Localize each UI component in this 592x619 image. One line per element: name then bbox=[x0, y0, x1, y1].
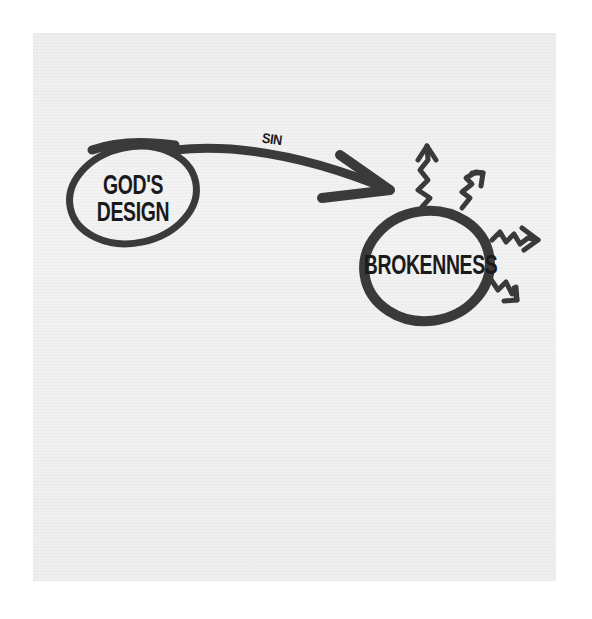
node-brokenness: BROKENNESS bbox=[364, 252, 486, 279]
diagram-canvas bbox=[0, 0, 592, 619]
squiggly-arrow-right bbox=[492, 228, 538, 250]
squiggly-arrow-upright bbox=[462, 172, 483, 208]
node-gods-design: GOD'S DESIGN bbox=[93, 172, 172, 226]
squiggly-arrow-downright bbox=[490, 278, 517, 301]
squiggly-arrow-up bbox=[418, 146, 436, 207]
gods-design-line1: GOD'S bbox=[93, 172, 172, 199]
gods-design-line2: DESIGN bbox=[93, 199, 172, 226]
sin-arrow bbox=[175, 148, 390, 198]
